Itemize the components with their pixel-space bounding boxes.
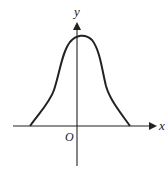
function-graph: y x O <box>0 0 168 170</box>
origin-label: O <box>65 130 74 144</box>
y-axis-label: y <box>72 4 80 19</box>
x-axis-label: x <box>158 118 165 133</box>
bell-curve <box>30 36 130 126</box>
